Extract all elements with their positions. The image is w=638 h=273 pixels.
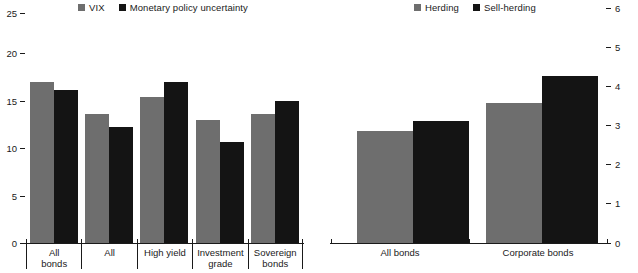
bar <box>413 121 469 243</box>
bar <box>251 114 275 243</box>
category-corporate-bonds: Corporate bonds <box>469 243 607 259</box>
category-sovereign-bonds: Sovereign bonds <box>248 243 303 269</box>
legend-entry-monetary-policy-uncertainty: Monetary policy uncertainty <box>119 2 248 13</box>
bar <box>54 90 78 243</box>
y-tick-4 <box>606 86 611 87</box>
y-tick-label-5: 5 <box>12 192 17 202</box>
left-chart-panel: VIX Monetary policy uncertainty 25 20 15… <box>0 0 318 273</box>
bar <box>542 76 598 243</box>
category-investment-grade: Investment grade <box>192 243 247 269</box>
left-category-axis: All bonds All High yield Investment grad… <box>26 243 303 269</box>
category-label-line2: bonds <box>27 259 81 270</box>
y-tick-6 <box>606 8 611 9</box>
y-tick-label-2: 2 <box>615 160 620 170</box>
y-tick-25 <box>20 13 25 14</box>
category-label-line2: grade <box>193 259 247 270</box>
y-tick-label-0: 0 <box>615 239 620 249</box>
bar-group <box>137 43 192 243</box>
bar <box>30 82 54 243</box>
y-tick-2 <box>606 164 611 165</box>
bar <box>220 142 244 243</box>
category-label-line1: Corporate bonds <box>469 248 607 259</box>
bar-group <box>477 43 606 243</box>
category-all-bonds: All bonds <box>331 243 469 259</box>
bar <box>357 131 413 243</box>
y-tick-20 <box>20 53 25 54</box>
category-tick-right <box>607 239 608 243</box>
y-tick-label-3: 3 <box>615 121 620 131</box>
legend-entry-vix: VIX <box>78 2 105 13</box>
y-tick-10 <box>20 148 25 149</box>
y-tick-5 <box>20 196 25 197</box>
left-category-row: All bonds All High yield Investment grad… <box>26 243 303 269</box>
y-tick-5 <box>606 47 611 48</box>
category-all: All <box>81 243 136 269</box>
y-tick-label-15: 15 <box>6 97 17 107</box>
y-tick-1 <box>606 203 611 204</box>
legend-label-sell-herding: Sell-herding <box>484 2 536 13</box>
legend-entry-herding: Herding <box>414 2 459 13</box>
right-category-axis: All bonds Corporate bonds <box>331 243 607 259</box>
gray-square-icon <box>78 4 85 11</box>
category-label-line1: Sovereign <box>249 248 302 259</box>
y-tick-label-6: 6 <box>615 4 620 14</box>
bar <box>140 97 164 243</box>
category-all-bonds: All bonds <box>26 243 81 269</box>
bar <box>196 120 220 243</box>
y-tick-label-5: 5 <box>615 43 620 53</box>
bar-group <box>348 43 477 243</box>
category-label-line1: All <box>82 248 136 259</box>
bar <box>275 101 299 243</box>
category-label-line1: High yield <box>138 248 192 259</box>
bar <box>486 103 542 243</box>
y-tick-3 <box>606 125 611 126</box>
left-chart-legend: VIX Monetary policy uncertainty <box>78 2 248 13</box>
right-category-row: All bonds Corporate bonds <box>331 243 607 259</box>
bar-group <box>26 43 81 243</box>
y-tick-label-4: 4 <box>615 82 620 92</box>
category-high-yield: High yield <box>137 243 192 269</box>
black-square-icon <box>119 4 126 11</box>
y-tick-15 <box>20 101 25 102</box>
y-tick-label-0: 0 <box>12 239 17 249</box>
right-y-axis: 6 5 4 3 2 1 0 <box>606 0 607 273</box>
category-label-line1: Investment <box>193 248 247 259</box>
bar <box>109 127 133 243</box>
legend-label-vix: VIX <box>89 2 105 13</box>
legend-entry-sell-herding: Sell-herding <box>473 2 536 13</box>
bar-group <box>248 43 303 243</box>
right-chart-bars <box>348 43 606 243</box>
y-tick-label-1: 1 <box>615 199 620 209</box>
legend-label-herding: Herding <box>425 2 459 13</box>
right-chart-legend: Herding Sell-herding <box>414 2 536 13</box>
legend-label-monetary-policy-uncertainty: Monetary policy uncertainty <box>130 2 248 13</box>
category-label-line1: All bonds <box>331 248 469 259</box>
bar-group <box>192 43 247 243</box>
y-tick-label-10: 10 <box>6 144 17 154</box>
gray-square-icon <box>414 4 421 11</box>
bar <box>85 114 109 243</box>
category-label-line2: bonds <box>249 259 302 270</box>
y-tick-label-25: 25 <box>6 9 17 19</box>
black-square-icon <box>473 4 480 11</box>
category-label-line1: All <box>27 248 81 259</box>
bar-group <box>81 43 136 243</box>
y-tick-label-20: 20 <box>6 49 17 59</box>
right-chart-panel: Herding Sell-herding 6 5 4 3 2 1 0 All b… <box>318 0 638 273</box>
left-chart-bars <box>26 43 303 243</box>
bar <box>164 82 188 243</box>
